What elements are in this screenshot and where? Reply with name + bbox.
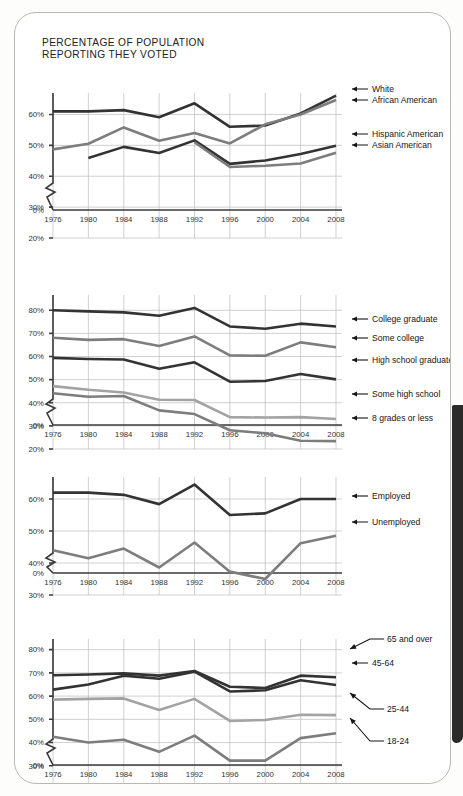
y-axis-with-break (46, 295, 55, 425)
x-axis-tick-label: 1988 (150, 578, 167, 587)
y-axis-tick-label: 20% (28, 234, 44, 243)
page-background: PERCENTAGE OF POPULATION REPORTING THEY … (0, 0, 463, 796)
x-axis-tick-label: 1984 (115, 770, 133, 779)
page-title-line-1: PERCENTAGE OF POPULATION (42, 37, 205, 49)
x-axis-tick-label: 1980 (80, 215, 98, 224)
legend-arrow-head-icon (352, 131, 357, 136)
x-axis-tick-label: 1976 (44, 578, 61, 587)
chart-employment-status: 0%30%40%50%60%19761980198419881992199620… (15, 461, 451, 621)
y-axis-tick-label: 60% (28, 692, 44, 701)
y-axis-tick-label: 40% (28, 399, 44, 408)
y-axis-tick-label: 50% (28, 527, 44, 536)
chart-race-ethnicity: 0%20%30%40%50%60%19761980198419881992199… (15, 71, 451, 264)
x-axis-tick-label: 2008 (327, 770, 344, 779)
y-axis-tick-label: 40% (28, 559, 44, 568)
y-axis-with-break (46, 639, 55, 765)
x-axis-tick-label: 2008 (327, 215, 344, 224)
legend-label: African American (372, 95, 437, 105)
chart-education: 0%20%30%40%50%60%70%80%19761980198419881… (15, 277, 451, 475)
x-axis-tick-label: 2008 (327, 430, 344, 439)
y-axis-tick-label: 60% (28, 110, 44, 119)
legend-label: Employed (372, 491, 410, 501)
y-axis-tick-label: 30% (28, 422, 44, 431)
chart-age-group: 0%20%30%40%50%60%70%80%19761980198419881… (15, 621, 451, 784)
chart-svg: 0%20%30%40%50%60%19761980198419881992199… (15, 71, 451, 264)
x-axis-tick-label: 2000 (257, 215, 275, 224)
y-axis-tick-label: 60% (28, 495, 44, 504)
legend-arrow-head-icon (352, 86, 357, 91)
legend-label: White (372, 84, 394, 94)
x-axis-tick-label: 1992 (186, 770, 203, 779)
legend-arrow-head-icon (352, 335, 357, 340)
x-axis-tick-label: 1996 (221, 578, 238, 587)
x-axis-tick-label: 1988 (150, 770, 167, 779)
x-axis-tick-label: 1980 (80, 578, 98, 587)
legend-label: 8 grades or less (372, 413, 433, 423)
y-axis-tick-label: 30% (28, 203, 44, 212)
legend-arrow-head-icon (352, 519, 357, 524)
x-axis-tick-label: 2008 (327, 578, 344, 587)
legend-arrow-head-icon (352, 660, 357, 665)
chart-svg: 0%20%30%40%50%60%70%80%19761980198419881… (15, 277, 451, 475)
legend-arrow-head-icon (352, 316, 357, 321)
x-axis-tick-label: 1996 (221, 215, 238, 224)
y-axis-tick-label: 50% (28, 715, 44, 724)
y-axis-tick-label: 80% (28, 645, 44, 654)
y-axis-tick-label: 30% (28, 591, 44, 600)
legend-label: 45-64 (372, 658, 394, 668)
x-axis-tick-label: 1976 (44, 770, 61, 779)
x-axis-tick-label: 1980 (80, 430, 98, 439)
y-axis-tick-label: 60% (28, 352, 44, 361)
legend-arrow-head-icon (352, 415, 357, 420)
x-axis-tick-label: 1992 (186, 215, 203, 224)
legend-label: Hispanic American (372, 129, 443, 139)
legend-label: College graduate (372, 314, 438, 324)
x-axis-tick-label: 1988 (150, 430, 167, 439)
series-line (88, 140, 336, 163)
x-axis-tick-label: 2004 (292, 430, 310, 439)
legend-label: Asian American (372, 140, 432, 150)
chart-svg: 0%20%30%40%50%60%70%80%19761980198419881… (15, 621, 451, 784)
legend-label: High school graduate (372, 355, 451, 365)
legend-arrow-head-icon (352, 391, 357, 396)
legend-arrow-head-icon (352, 142, 357, 147)
y-axis-tick-label: 0% (33, 569, 44, 578)
legend-arrow-head-icon (352, 357, 357, 362)
x-axis-tick-label: 1984 (115, 430, 133, 439)
chart-svg: 0%30%40%50%60%19761980198419881992199620… (15, 461, 451, 621)
y-axis-tick-label: 40% (28, 738, 44, 747)
chart-card: PERCENTAGE OF POPULATION REPORTING THEY … (14, 12, 451, 784)
x-axis-tick-label: 2000 (257, 770, 275, 779)
y-axis-tick-label: 20% (28, 445, 44, 454)
legend-label: Unemployed (372, 517, 420, 527)
x-axis-tick-label: 1980 (80, 770, 98, 779)
legend-arrow-head-icon (352, 97, 357, 102)
legend-label: 65 and over (387, 634, 433, 644)
page-spine-shadow (452, 405, 463, 743)
x-axis-tick-label: 1992 (186, 578, 203, 587)
x-axis-tick-label: 2004 (292, 215, 310, 224)
page-title-line-2: REPORTING THEY VOTED (42, 49, 205, 61)
x-axis-tick-label: 2004 (292, 578, 310, 587)
legend-label: 25-44 (387, 704, 409, 714)
legend-label: Some high school (372, 389, 440, 399)
y-axis-tick-label: 50% (28, 375, 44, 384)
page-title: PERCENTAGE OF POPULATION REPORTING THEY … (42, 37, 205, 62)
legend-label: 18-24 (387, 736, 409, 746)
x-axis-tick-label: 1996 (221, 770, 238, 779)
y-axis-tick-label: 30% (28, 762, 44, 771)
x-axis-tick-label: 1988 (150, 215, 167, 224)
x-axis-tick-label: 1984 (115, 578, 133, 587)
y-axis-tick-label: 40% (28, 172, 44, 181)
x-axis-tick-label: 1984 (115, 215, 133, 224)
y-axis-tick-label: 70% (28, 669, 44, 678)
y-axis-tick-label: 50% (28, 141, 44, 150)
y-axis-tick-label: 70% (28, 329, 44, 338)
x-axis-tick-label: 1976 (44, 215, 61, 224)
x-axis-tick-label: 2004 (292, 770, 310, 779)
x-axis-tick-label: 1992 (186, 430, 203, 439)
y-axis-tick-label: 80% (28, 306, 44, 315)
legend-label: Some college (372, 333, 424, 343)
legend-arrow-head-icon (352, 493, 357, 498)
x-axis-tick-label: 1976 (44, 430, 61, 439)
